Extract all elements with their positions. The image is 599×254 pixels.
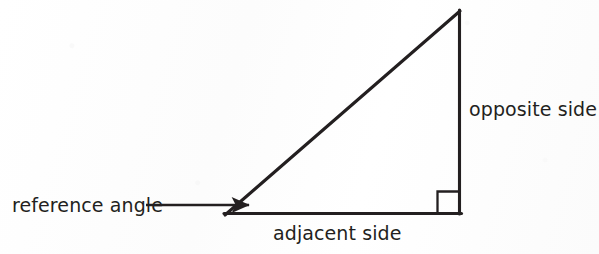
- reference-angle-label: reference angle: [12, 196, 163, 215]
- opposite-side-label: opposite side: [469, 100, 597, 119]
- right-angle-marker-icon: [438, 192, 459, 213]
- adjacent-side-label: adjacent side: [273, 224, 402, 243]
- diagram-canvas: reference angle opposite side adjacent s…: [0, 0, 599, 254]
- hypotenuse-line: [225, 11, 460, 215]
